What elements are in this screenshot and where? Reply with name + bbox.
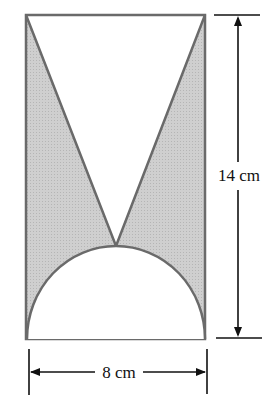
- geometry-figure: 14 cm 8 cm: [0, 0, 280, 415]
- height-label: 14 cm: [218, 166, 260, 185]
- width-label: 8 cm: [102, 363, 136, 382]
